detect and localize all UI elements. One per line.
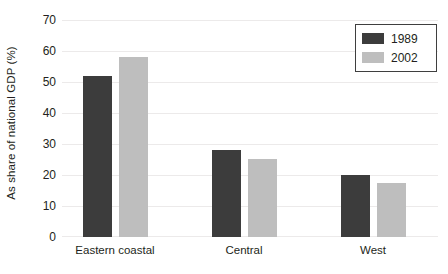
- gridline-70: [62, 20, 438, 21]
- x-axis-tick-labels: Eastern coastalCentralWest: [62, 243, 438, 263]
- legend-label-1989: 1989: [391, 33, 418, 45]
- legend-swatch-2002: [362, 52, 384, 63]
- bar-eastern-coastal-2002: [119, 57, 148, 237]
- y-tick-label-70: 70: [10, 14, 56, 26]
- bar-central-2002: [248, 159, 277, 237]
- y-tick-label-30: 30: [10, 138, 56, 150]
- legend-swatch-1989: [362, 33, 384, 44]
- x-tick-label-eastern-coastal: Eastern coastal: [45, 243, 185, 257]
- y-axis-tick-labels: 010203040506070: [6, 20, 56, 237]
- y-tick-label-0: 0: [10, 231, 56, 243]
- y-tick-label-20: 20: [10, 169, 56, 181]
- y-tick-label-50: 50: [10, 76, 56, 88]
- y-tick-label-60: 60: [10, 45, 56, 57]
- bar-eastern-coastal-1989: [83, 76, 112, 237]
- bar-west-2002: [377, 183, 406, 237]
- legend-item-2002: 2002: [362, 49, 430, 66]
- y-tick-label-40: 40: [10, 107, 56, 119]
- legend-label-2002: 2002: [391, 52, 418, 64]
- legend-item-1989: 1989: [362, 30, 430, 47]
- bar-west-1989: [341, 175, 370, 237]
- bar-central-1989: [212, 150, 241, 237]
- x-tick-label-west: West: [303, 243, 443, 257]
- legend: 19892002: [355, 24, 437, 72]
- bar-chart: As share of national GDP (%) 01020304050…: [0, 0, 448, 274]
- x-tick-label-central: Central: [174, 243, 314, 257]
- y-tick-label-10: 10: [10, 200, 56, 212]
